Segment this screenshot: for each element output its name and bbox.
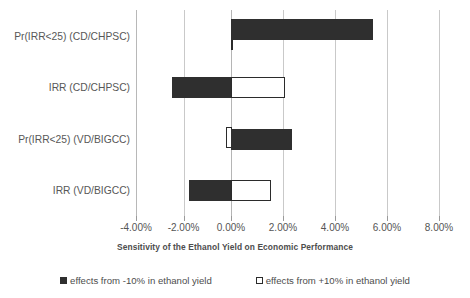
tick-mark-4pct bbox=[335, 216, 336, 221]
chart-legend: effects from -10% in ethanol yield effec… bbox=[0, 275, 470, 286]
category-label-2: Pr(IRR<25) (VD/BIGCC) bbox=[0, 133, 130, 144]
bar-pos10-3 bbox=[231, 180, 271, 201]
tick-mark-0pct bbox=[231, 216, 232, 221]
bar-pos10-1 bbox=[231, 77, 285, 98]
legend-item-neg10: effects from -10% in ethanol yield bbox=[60, 275, 212, 286]
legend-item-pos10: effects from +10% in ethanol yield bbox=[256, 275, 410, 286]
hollow-square-icon bbox=[256, 277, 263, 284]
x-axis-title: Sensitivity of the Ethanol Yield on Econ… bbox=[0, 242, 470, 252]
tick-label-0pct: 0.00% bbox=[201, 222, 261, 233]
bar-row-3 bbox=[136, 165, 450, 217]
tick-mark--4pct bbox=[136, 216, 137, 221]
plot-area bbox=[136, 10, 450, 216]
legend-label-neg10: effects from -10% in ethanol yield bbox=[70, 275, 212, 286]
tick-mark-6pct bbox=[387, 216, 388, 221]
sensitivity-bar-chart: Pr(IRR<25) (CD/CHPSC) IRR (CD/CHPSC) Pr(… bbox=[0, 0, 470, 298]
tick-mark-8pct bbox=[439, 216, 440, 221]
category-label-0: Pr(IRR<25) (CD/CHPSC) bbox=[0, 30, 130, 41]
tick-label-2pct: 2.00% bbox=[253, 222, 313, 233]
filled-square-icon bbox=[60, 277, 67, 284]
tick-label-8pct: 8.00% bbox=[409, 222, 469, 233]
category-label-1: IRR (CD/CHPSC) bbox=[0, 82, 130, 93]
bar-row-0 bbox=[136, 10, 450, 62]
bar-neg10-1 bbox=[172, 77, 231, 98]
category-label-3: IRR (VD/BIGCC) bbox=[0, 185, 130, 196]
bar-neg10-2 bbox=[231, 129, 292, 150]
tick-mark-2pct bbox=[283, 216, 284, 221]
bar-neg10-0 bbox=[231, 19, 373, 40]
bar-neg10-3 bbox=[189, 180, 231, 201]
tick-label-4pct: 4.00% bbox=[305, 222, 365, 233]
tick-label-6pct: 6.00% bbox=[357, 222, 417, 233]
bar-row-1 bbox=[136, 62, 450, 114]
legend-label-pos10: effects from +10% in ethanol yield bbox=[266, 275, 410, 286]
bar-row-2 bbox=[136, 113, 450, 165]
bar-pos10-0 bbox=[231, 40, 233, 50]
tick-mark--2pct bbox=[184, 216, 185, 221]
category-axis-labels: Pr(IRR<25) (CD/CHPSC) IRR (CD/CHPSC) Pr(… bbox=[0, 10, 136, 216]
